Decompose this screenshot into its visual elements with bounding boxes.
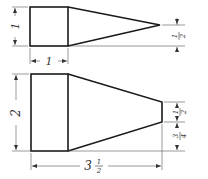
top-width-dimension: 1 — [31, 55, 67, 68]
top-height-dimension: 1 — [9, 8, 22, 45]
top-apex-den: 2 — [179, 33, 187, 39]
bottom-length-whole: 3 — [84, 159, 92, 173]
bottom-offset-dimension: 3 4 — [172, 123, 188, 150]
top-apex-num: 1 — [171, 34, 179, 38]
bottom-offset-num: 3 — [172, 133, 180, 138]
bottom-rectangle — [31, 74, 68, 151]
bottom-height-dimension: 2 — [9, 75, 23, 150]
bottom-trapezoid — [68, 74, 162, 151]
bottom-offset-den: 4 — [180, 134, 188, 139]
bottom-tip-dimension: 1 2 — [172, 103, 188, 121]
bottom-tip-den: 2 — [180, 109, 188, 115]
bottom-figure: 2 3 1 2 1 2 3 — [9, 74, 188, 175]
top-apex-dimension: 1 2 — [171, 18, 187, 52]
technical-drawing: 1 1 1 2 — [0, 0, 208, 179]
bottom-height-label: 2 — [9, 109, 23, 118]
bottom-length-dimension: 3 1 2 — [32, 158, 161, 175]
top-square — [30, 7, 68, 46]
top-width-label: 1 — [46, 55, 53, 68]
top-figure: 1 1 1 2 — [9, 7, 187, 68]
top-triangle — [68, 7, 160, 46]
top-height-label: 1 — [9, 23, 22, 30]
bottom-length-den: 2 — [96, 167, 102, 175]
bottom-tip-num: 1 — [172, 110, 180, 114]
bottom-length-num: 1 — [97, 158, 101, 166]
